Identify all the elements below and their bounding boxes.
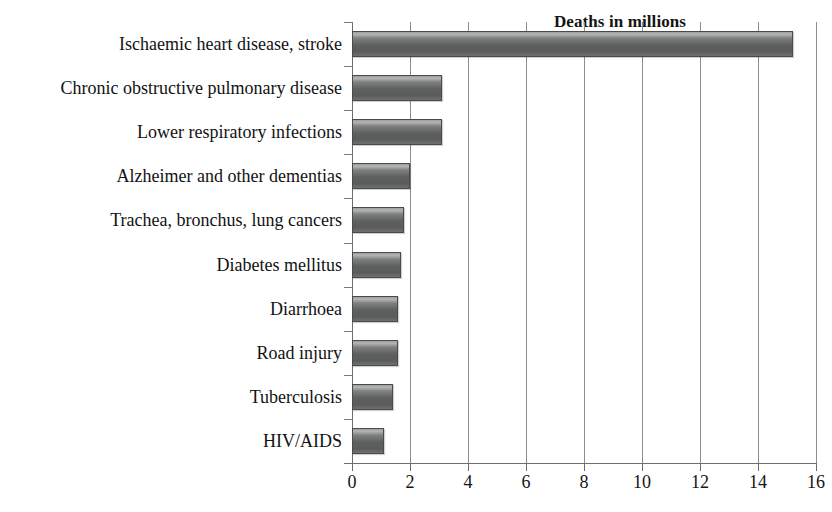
gridline-16 [816,22,817,463]
bar [352,296,398,322]
category-label: Ischaemic heart disease, stroke [12,34,352,54]
x-tick-10 [642,464,643,471]
y-tick [344,331,353,332]
gridline-8 [584,22,585,463]
bar [352,163,410,189]
x-tick-label: 2 [390,472,430,493]
x-tick-6 [526,464,527,471]
y-tick [344,66,353,67]
category-label: HIV/AIDS [12,431,352,451]
category-label: Road injury [12,343,352,363]
x-tick-label: 14 [738,472,778,493]
bar [352,252,401,278]
y-tick [344,110,353,111]
x-tick-label: 12 [680,472,720,493]
x-tick-2 [410,464,411,471]
y-tick [344,198,353,199]
gridline-10 [642,22,643,463]
bar [352,207,404,233]
x-tick-8 [584,464,585,471]
y-tick [344,154,353,155]
x-tick-12 [700,464,701,471]
x-tick-label: 4 [448,472,488,493]
bar [352,384,393,410]
x-tick-label: 0 [332,472,372,493]
category-label: Tuberculosis [12,387,352,407]
x-tick-4 [468,464,469,471]
category-label: Alzheimer and other dementias [12,166,352,186]
category-label: Chronic obstructive pulmonary disease [12,78,352,98]
y-tick-top [344,22,353,23]
bar [352,340,398,366]
category-label: Trachea, bronchus, lung cancers [12,210,352,230]
y-tick [344,243,353,244]
y-tick [344,375,353,376]
x-tick-label: 10 [622,472,662,493]
x-tick-label: 8 [564,472,604,493]
gridline-14 [758,22,759,463]
category-label: Lower respiratory infections [12,122,352,142]
y-tick [344,419,353,420]
y-tick [344,287,353,288]
bar [352,75,442,101]
gridline-12 [700,22,701,463]
x-tick-label: 6 [506,472,546,493]
bar [352,119,442,145]
gridline-4 [468,22,469,463]
x-tick-16 [816,464,817,471]
category-axis-labels: Ischaemic heart disease, strokeChronic o… [0,22,352,463]
x-tick-label: 16 [796,472,832,493]
bar [352,31,793,57]
category-label: Diarrhoea [12,299,352,319]
x-tick-0 [352,464,353,471]
gridline-6 [526,22,527,463]
plot-area [352,22,816,463]
x-axis-line [344,463,817,464]
bar [352,428,384,454]
category-label: Diabetes mellitus [12,255,352,275]
bar-chart: Deaths in millions Ischaemic heart disea… [0,0,832,512]
x-tick-14 [758,464,759,471]
